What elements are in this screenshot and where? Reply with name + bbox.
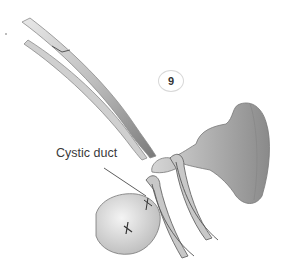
label-leader-line <box>104 168 146 196</box>
dissector-instrument <box>5 18 156 160</box>
cystic-duct-label: Cystic duct <box>56 146 117 160</box>
illustration-drawing <box>0 0 282 268</box>
step-number: 9 <box>168 75 174 87</box>
hepatoduodenal-tissue <box>152 103 270 204</box>
surgical-illustration: 9 Cystic duct <box>0 0 282 268</box>
step-number-badge: 9 <box>158 70 184 92</box>
gallbladder <box>96 194 160 255</box>
